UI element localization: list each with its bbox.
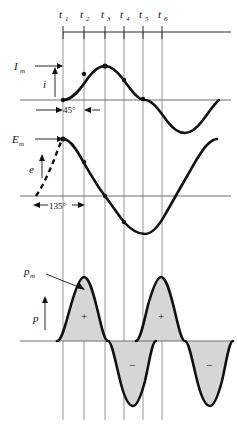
- angle-135-label: 135°: [49, 201, 67, 211]
- current-point-t1: [61, 98, 65, 102]
- tick-label-t1-sub: 1: [65, 15, 69, 23]
- tick-label-t2-sub: 2: [86, 15, 90, 23]
- power-sign-plus-1: +: [81, 310, 87, 322]
- angle-45-dimension: 45°: [36, 105, 100, 115]
- power-negative-fill-1: [108, 341, 156, 406]
- tick-label-t3-sub: 3: [106, 15, 111, 23]
- label-pm-sub: m: [30, 272, 35, 280]
- voltage-point-t3: [103, 194, 107, 198]
- tick-label-t3: t: [101, 8, 105, 20]
- label-p: p: [32, 312, 39, 324]
- angle-45-label: 45°: [63, 105, 76, 115]
- power-amplitude-leader: [46, 274, 81, 288]
- label-i: i: [43, 78, 46, 90]
- power-direction-arrow: [42, 296, 48, 303]
- current-panel: I m i 45°: [13, 60, 231, 133]
- label-Im-sub: m: [20, 67, 25, 75]
- tick-label-t5: t: [139, 8, 143, 20]
- tick-label-t4: t: [120, 8, 124, 20]
- label-Em-sub: m: [19, 140, 24, 148]
- power-sign-plus-2: +: [158, 310, 164, 322]
- current-point-t4: [122, 78, 126, 82]
- waveform-diagram: t 1 t 2 t 3 t 4 t 5 t 6 I m i: [0, 0, 237, 426]
- angle-45-left-arrow: [56, 107, 63, 113]
- current-point-t2: [82, 72, 86, 76]
- voltage-panel: E m e 135°: [11, 133, 231, 234]
- waveform-figure: t 1 t 2 t 3 t 4 t 5 t 6 I m i: [0, 0, 237, 426]
- tick-label-t4-sub: 4: [126, 15, 130, 23]
- time-axis: [63, 26, 231, 39]
- label-e: e: [29, 163, 34, 175]
- voltage-point-t2: [82, 160, 86, 164]
- voltage-direction-arrow: [39, 154, 45, 161]
- voltage-waveform-dashed: [36, 139, 63, 196]
- tick-label-t6-sub: 6: [164, 15, 168, 23]
- power-sign-minus-2: −: [206, 359, 212, 371]
- current-point-t5: [141, 97, 145, 101]
- label-Im: I: [13, 60, 19, 72]
- tick-label-t2: t: [80, 8, 84, 20]
- label-Em: E: [11, 133, 19, 145]
- angle-135-left-arrow: [33, 202, 40, 208]
- label-pm: p: [23, 265, 30, 277]
- power-sign-minus-1: −: [129, 359, 135, 371]
- time-tick-labels: t 1 t 2 t 3 t 4 t 5 t 6: [59, 8, 168, 23]
- power-negative-fill-2: [185, 341, 233, 406]
- tick-label-t1: t: [59, 8, 63, 20]
- angle-45-right-arrow: [84, 107, 91, 113]
- voltage-waveform: [63, 139, 217, 234]
- power-panel: p m p + − + −: [20, 265, 233, 406]
- tick-label-t5-sub: 5: [145, 15, 149, 23]
- current-point-t3: [102, 63, 107, 68]
- voltage-point-t4: [122, 220, 126, 224]
- tick-label-t6: t: [158, 8, 162, 20]
- current-amplitude-arrow: [57, 63, 63, 69]
- angle-135-dimension: 135°: [33, 201, 85, 211]
